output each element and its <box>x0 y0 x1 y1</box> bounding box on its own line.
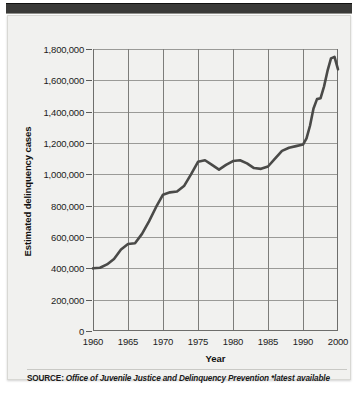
x-axis-tick-labels: 19601965197019751980198519902000 <box>93 336 338 350</box>
line-series-delinquency-cases <box>93 49 338 331</box>
plot-area <box>93 49 338 331</box>
y-axis-tick-label: 1,400,000 <box>44 106 84 117</box>
masthead-bar <box>6 3 352 14</box>
y-axis-tick-mark <box>86 300 92 301</box>
y-axis-tick-label: 1,800,000 <box>44 44 84 55</box>
x-axis-tick-label: 1960 <box>83 336 103 347</box>
x-axis-tick-label: 1965 <box>118 336 138 347</box>
x-axis-title: Year <box>93 353 338 364</box>
y-axis-tick-label: 0 <box>79 326 84 337</box>
x-axis-tick-label: 1980 <box>223 336 243 347</box>
y-axis-tick-mark <box>86 112 92 113</box>
y-axis-tick-label: 800,000 <box>51 200 84 211</box>
x-axis-tick-label: 1970 <box>153 336 173 347</box>
x-axis-tick-label: 2000 <box>328 336 348 347</box>
y-axis-tick-mark <box>86 174 92 175</box>
chart-panel: 0200,000400,000600,000800,0001,000,0001,… <box>7 15 351 380</box>
source-note: SOURCE: Office of Juvenile Justice and D… <box>27 374 351 383</box>
y-axis-tick-label: 600,000 <box>51 232 84 243</box>
figure-card: 0200,000400,000600,000800,0001,000,0001,… <box>0 0 358 395</box>
y-axis-title: Estimated delinquency cases <box>21 106 35 276</box>
y-axis-tick-label: 200,000 <box>51 294 84 305</box>
y-axis-tick-mark <box>86 80 92 81</box>
y-axis-tick-mark <box>86 49 92 50</box>
y-axis-tick-label: 1,600,000 <box>44 75 84 86</box>
x-axis-tick-label: 1990 <box>293 336 313 347</box>
y-axis-tick-labels: 0200,000400,000600,000800,0001,000,0001,… <box>8 49 84 331</box>
series-polyline <box>93 57 338 269</box>
y-axis-tick-mark <box>86 206 92 207</box>
y-axis-tick-label: 1,200,000 <box>44 138 84 149</box>
y-axis-tick-mark <box>86 268 92 269</box>
y-axis-tick-label: 400,000 <box>51 263 84 274</box>
source-divider <box>27 369 347 370</box>
y-axis-tick-mark <box>86 237 92 238</box>
x-axis-tick-label: 1985 <box>258 336 278 347</box>
source-label: SOURCE: <box>27 374 64 383</box>
y-axis-tick-mark <box>86 143 92 144</box>
y-axis-tick-mark <box>86 331 92 332</box>
x-axis-tick-label: 1975 <box>188 336 208 347</box>
y-axis-title-text: Estimated delinquency cases <box>23 126 34 256</box>
y-axis-tick-label: 1,000,000 <box>44 169 84 180</box>
source-body: Office of Juvenile Justice and Delinquen… <box>66 374 330 383</box>
